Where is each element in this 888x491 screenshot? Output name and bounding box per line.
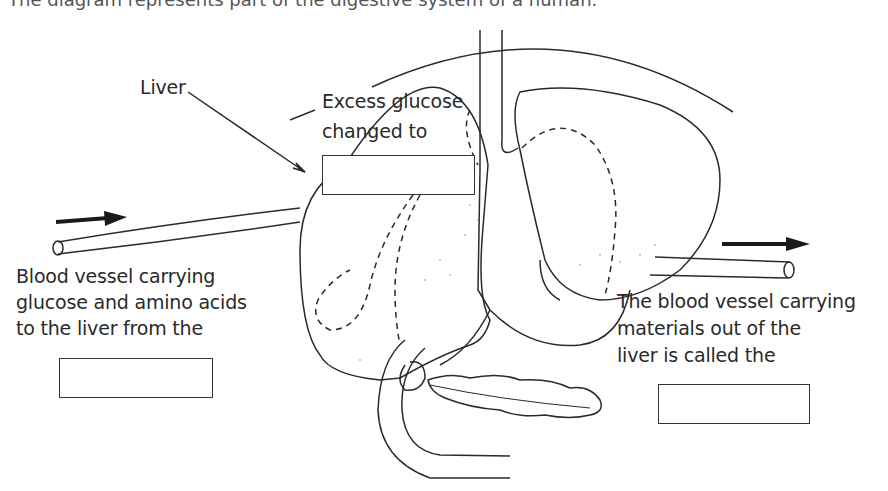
excess-glucose-label-line2: changed to: [322, 119, 427, 143]
arrow-out-icon: [722, 237, 810, 251]
diaphragm-line-left: [290, 110, 315, 120]
hepatic-vein-vessel: [650, 257, 794, 278]
pancreas: [428, 375, 601, 417]
blood-out-label-line1: The blood vessel carrying: [617, 289, 856, 313]
liver-right-lobe: [515, 88, 720, 300]
liver-label: Liver: [140, 75, 186, 99]
liver-pointer-line: [188, 92, 305, 172]
blood-in-answer-box[interactable]: [59, 358, 213, 398]
blood-in-label-line1: Blood vessel carrying: [16, 264, 215, 288]
excess-glucose-answer-box[interactable]: [322, 155, 475, 195]
hepatic-portal-vessel: [53, 208, 300, 255]
blood-in-label-line3: to the liver from the: [16, 316, 203, 340]
blood-out-label-line3: liver is called the: [617, 343, 775, 367]
stomach: [440, 260, 630, 365]
excess-glucose-label-line1: Excess glucose: [322, 89, 463, 113]
oesophagus: [478, 30, 518, 310]
blood-out-label-line2: materials out of the: [617, 316, 801, 340]
blood-out-answer-box[interactable]: [658, 384, 810, 424]
blood-in-label-line2: glucose and amino acids: [16, 290, 247, 314]
arrow-in-icon: [56, 211, 127, 226]
